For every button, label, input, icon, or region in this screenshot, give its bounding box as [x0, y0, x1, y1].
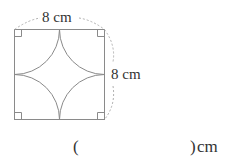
answer-unit: cm: [197, 138, 218, 155]
quarter-arcs: [15, 30, 105, 120]
right-angle-marks: [15, 30, 105, 120]
dimension-arcs: [15, 18, 114, 120]
square: [15, 30, 105, 120]
answer-blank[interactable]: [84, 136, 188, 156]
side-dimension-label: 8 cm: [111, 67, 141, 82]
top-dimension-label: 8 cm: [42, 10, 72, 25]
answer-close-paren: ): [190, 138, 196, 155]
answer-open-paren: (: [73, 138, 79, 155]
